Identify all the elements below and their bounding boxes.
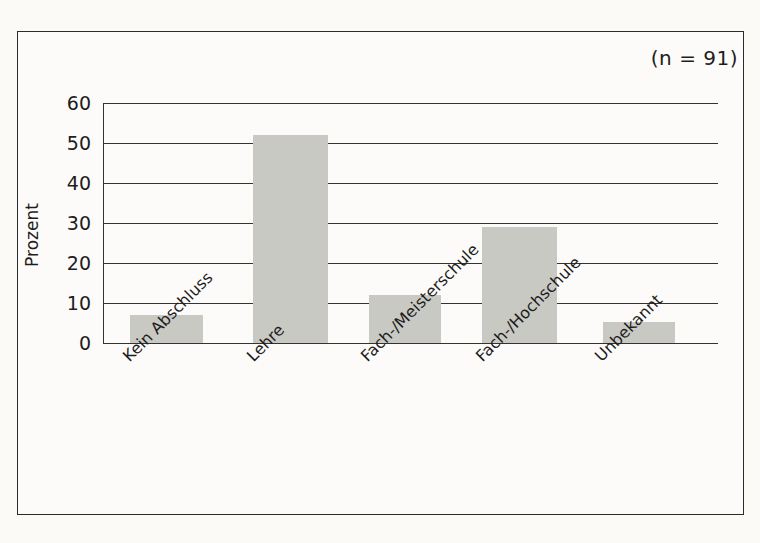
- gridline: [103, 263, 718, 264]
- y-axis-tick-label: 20: [67, 252, 91, 274]
- chart-page: (n = 91) Prozent 0102030405060 Kein Absc…: [0, 0, 760, 543]
- bar: [253, 135, 328, 343]
- y-axis-title: Prozent: [22, 203, 42, 267]
- gridline: [103, 183, 718, 184]
- y-axis-tick-label: 50: [67, 132, 91, 154]
- sample-size-annotation: (n = 91): [651, 46, 738, 70]
- y-axis-tick-label: 10: [67, 292, 91, 314]
- y-axis-tick-label: 30: [67, 212, 91, 234]
- y-axis-tick-label: 40: [67, 172, 91, 194]
- gridline: [103, 103, 718, 104]
- y-axis-tick-label: 60: [67, 92, 91, 114]
- gridline: [103, 143, 718, 144]
- gridline: [103, 223, 718, 224]
- y-axis-tick-label: 0: [79, 332, 91, 354]
